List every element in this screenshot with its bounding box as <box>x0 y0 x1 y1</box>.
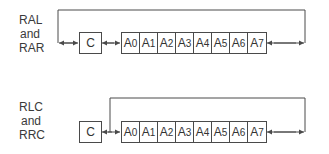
carry-box-bottom: C <box>79 121 102 143</box>
bit-cell-a5: A5 <box>212 122 230 142</box>
accumulator-register-bottom: A0 A1 A2 A3 A4 A5 A6 A7 <box>121 121 267 143</box>
bit-cell-a3: A3 <box>176 122 194 142</box>
bit-cell-a4: A4 <box>194 122 212 142</box>
bit-cell-a0: A0 <box>122 122 140 142</box>
bit-cell-a7: A7 <box>248 122 266 142</box>
bit-cell-a4: A4 <box>194 33 212 53</box>
rlc-rrc-label: RLC and RRC <box>19 100 45 142</box>
bit-cell-a6: A6 <box>230 122 248 142</box>
label-line: RLC <box>19 100 45 114</box>
bit-cell-a2: A2 <box>158 122 176 142</box>
bit-cell-a6: A6 <box>230 33 248 53</box>
label-line: RAR <box>19 41 44 55</box>
bit-cell-a1: A1 <box>140 122 158 142</box>
ral-rar-label: RAL and RAR <box>19 13 44 55</box>
label-line: and <box>21 114 45 128</box>
label-line: RRC <box>19 128 45 142</box>
bit-cell-a1: A1 <box>140 33 158 53</box>
carry-box-top: C <box>79 32 102 54</box>
bit-cell-a2: A2 <box>158 33 176 53</box>
bit-cell-a3: A3 <box>176 33 194 53</box>
label-line: and <box>20 27 44 41</box>
bit-cell-a5: A5 <box>212 33 230 53</box>
accumulator-register-top: A0 A1 A2 A3 A4 A5 A6 A7 <box>121 32 267 54</box>
bit-cell-a7: A7 <box>248 33 266 53</box>
bit-cell-a0: A0 <box>122 33 140 53</box>
label-line: RAL <box>19 13 44 27</box>
